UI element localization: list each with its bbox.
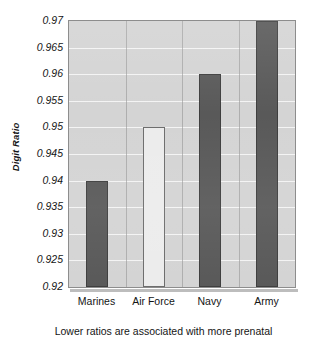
category-separator: [239, 21, 240, 287]
x-axis-label-air-force: Air Force: [125, 295, 182, 307]
y-axis-tick-label: 0.935: [17, 200, 63, 212]
plot-area: [68, 20, 296, 288]
x-axis-label-marines: Marines: [68, 295, 125, 307]
bar-navy: [199, 74, 221, 287]
y-axis-tick-label: 0.95: [17, 120, 63, 132]
y-axis-tick-label: 0.96: [17, 67, 63, 79]
y-axis-tick-label: 0.965: [17, 41, 63, 53]
x-axis-label-army: Army: [238, 295, 295, 307]
category-separator: [126, 21, 127, 287]
bar-chart-figure: Digit Ratio 0.970.9650.960.9550.950.9450…: [0, 0, 327, 345]
y-axis-tick-label: 0.94: [17, 174, 63, 186]
chart-caption: Lower ratios are associated with more pr…: [0, 325, 327, 337]
y-axis-tick-label: 0.945: [17, 147, 63, 159]
x-axis-category-labels: MarinesAir ForceNavyArmy: [68, 295, 296, 311]
y-axis-tick-label: 0.97: [17, 14, 63, 26]
bar-army: [256, 21, 278, 287]
y-axis-tick-label: 0.925: [17, 253, 63, 265]
bar-marines: [86, 181, 108, 287]
bar-air-force: [143, 127, 165, 287]
chart-title-remnant: [86, 0, 256, 5]
y-axis-tick-label: 0.92: [17, 280, 63, 292]
x-axis-baseline: [70, 289, 298, 292]
y-axis-tick-label: 0.93: [17, 227, 63, 239]
x-axis-label-navy: Navy: [181, 295, 238, 307]
y-axis-tick-labels: 0.970.9650.960.9550.950.9450.940.9350.93…: [18, 14, 66, 289]
y-axis-tick-label: 0.955: [17, 94, 63, 106]
category-separator: [182, 21, 183, 287]
